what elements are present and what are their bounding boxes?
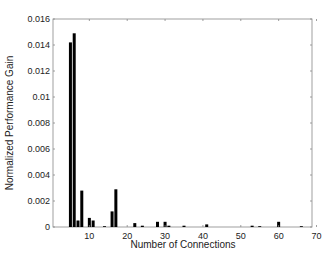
bar bbox=[183, 226, 186, 227]
y-tick-label: 0.004 bbox=[27, 170, 50, 180]
y-tick-label: 0.002 bbox=[27, 196, 50, 206]
bar bbox=[114, 189, 117, 227]
bar bbox=[141, 226, 144, 227]
bar bbox=[167, 226, 170, 227]
x-tick-label: 70 bbox=[311, 231, 321, 241]
y-tick-label: 0.014 bbox=[27, 40, 50, 50]
y-tick-label: 0.016 bbox=[27, 14, 50, 24]
bar bbox=[205, 224, 208, 227]
plot-area bbox=[53, 19, 312, 227]
x-tick-label: 60 bbox=[274, 231, 284, 241]
y-tick-label: 0 bbox=[45, 222, 50, 232]
bar bbox=[69, 42, 72, 227]
bar bbox=[156, 222, 159, 227]
y-axis-label: Normalized Performance Gain bbox=[4, 56, 15, 191]
bar-chart: 10203040506070 00.0020.0040.0060.0080.01… bbox=[0, 0, 330, 262]
y-tick-label: 0.01 bbox=[32, 92, 50, 102]
bar bbox=[111, 211, 114, 227]
bar bbox=[251, 226, 254, 227]
bar bbox=[73, 33, 76, 227]
bar bbox=[300, 226, 303, 227]
bar bbox=[80, 191, 83, 227]
x-tick-label: 50 bbox=[236, 231, 246, 241]
bar bbox=[77, 221, 80, 228]
bar bbox=[258, 226, 261, 227]
x-tick-label: 10 bbox=[84, 231, 94, 241]
y-tick-label: 0.008 bbox=[27, 118, 50, 128]
x-axis-label: Number of Connections bbox=[130, 239, 235, 250]
bar bbox=[92, 221, 95, 228]
bar bbox=[133, 223, 136, 227]
bar bbox=[103, 226, 106, 227]
y-tick-label: 0.012 bbox=[27, 66, 50, 76]
y-tick-label: 0.006 bbox=[27, 144, 50, 154]
